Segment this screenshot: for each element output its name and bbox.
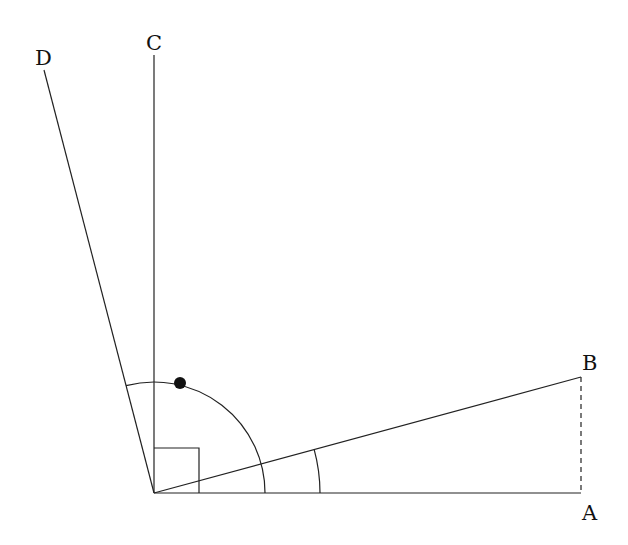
right-angle-marker <box>154 448 199 493</box>
label-d: D <box>35 46 52 70</box>
angle-marker-dot <box>174 377 186 389</box>
ray-ob <box>154 377 581 493</box>
label-c: C <box>146 31 162 55</box>
label-a: A <box>581 501 598 525</box>
label-b: B <box>582 351 597 375</box>
diagram-svg: D C B A <box>0 0 628 545</box>
arc-angle-aob <box>314 450 320 493</box>
arc-angle-aod <box>126 382 265 493</box>
ray-od <box>44 70 154 493</box>
geometry-diagram: D C B A <box>0 0 628 545</box>
